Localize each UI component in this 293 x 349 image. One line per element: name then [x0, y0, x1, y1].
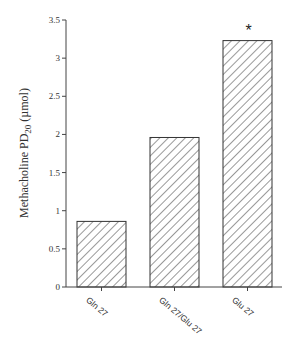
bar — [223, 41, 272, 287]
y-axis-label: Methacholine PD20 (µmol) — [17, 88, 33, 218]
x-axis: Gln 27Gln 27/Glu 27Glu 27 — [66, 287, 282, 336]
x-tick-label: Glu 27 — [230, 295, 256, 319]
bar-chart: 00.511.522.533.5 * Gln 27Gln 27/Glu 27Gl… — [0, 0, 293, 349]
y-tick-label: 3.5 — [49, 15, 61, 25]
bars: * — [77, 22, 272, 287]
significance-asterisk: * — [245, 22, 251, 39]
y-tick-label: 2.5 — [49, 91, 61, 101]
x-tick-label: Gln 27 — [84, 295, 110, 319]
bar — [150, 137, 199, 287]
x-tick-label: Gln 27/Glu 27 — [157, 295, 204, 337]
y-tick-label: 1 — [56, 206, 61, 216]
y-tick-label: 0.5 — [49, 244, 61, 254]
y-tick-label: 2 — [56, 129, 61, 139]
y-tick-label: 0 — [56, 282, 61, 292]
y-axis: 00.511.522.533.5 — [49, 15, 66, 292]
y-tick-label: 1.5 — [49, 168, 61, 178]
chart: 00.511.522.533.5 * Gln 27Gln 27/Glu 27Gl… — [0, 0, 293, 349]
y-tick-label: 3 — [56, 53, 61, 63]
bar — [77, 221, 126, 287]
